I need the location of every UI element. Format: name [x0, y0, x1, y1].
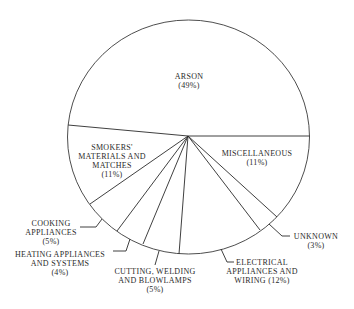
label-cutting-pct: (5%): [146, 285, 163, 294]
leader-cutting: [155, 251, 159, 265]
label-heating: HEATING APPLIANCES AND SYSTEMS (4%): [15, 250, 105, 277]
label-arson: ARSON (49%): [175, 72, 204, 90]
label-arson-pct: (49%): [178, 81, 200, 90]
leader-cooking: [80, 219, 102, 227]
pie-chart-svg: ARSON (49%) MISCELLANEOUS (11%) SMOKERS'…: [0, 0, 354, 309]
label-heating-line2: AND SYSTEMS: [31, 259, 90, 268]
label-electrical-line1: ELECTRICAL: [236, 258, 288, 267]
leader-unknown: [269, 224, 290, 236]
label-cooking-pct: (5%): [42, 237, 59, 246]
label-misc-pct: (11%): [246, 158, 267, 167]
pie-chart: ARSON (49%) MISCELLANEOUS (11%) SMOKERS'…: [0, 0, 354, 309]
leader-electrical: [221, 249, 234, 262]
label-smokers-pct: (11%): [101, 170, 122, 179]
label-cutting-line2: AND BLOWLAMPS: [118, 276, 191, 285]
label-unknown: UNKNOWN (3%): [294, 232, 338, 250]
label-heating-pct: (4%): [51, 268, 68, 277]
label-electrical-line2: APPLIANCES AND: [226, 267, 298, 276]
label-misc-name: MISCELLANEOUS: [222, 149, 293, 158]
label-smokers-line3: MATCHES: [92, 161, 131, 170]
label-cutting: CUTTING, WELDING AND BLOWLAMPS (5%): [114, 267, 195, 294]
label-smokers-line2: MATERIALS AND: [78, 152, 146, 161]
label-heating-line1: HEATING APPLIANCES: [15, 250, 105, 259]
label-unknown-pct: (3%): [307, 241, 324, 250]
label-electrical-line3: WIRING (12%): [234, 276, 289, 285]
label-cooking: COOKING APPLIANCES (5%): [25, 219, 76, 246]
leader-heating: [113, 239, 130, 251]
label-cooking-line1: COOKING: [32, 219, 71, 228]
label-arson-name: ARSON: [175, 72, 204, 81]
label-electrical: ELECTRICAL APPLIANCES AND WIRING (12%): [226, 258, 298, 285]
label-cutting-line1: CUTTING, WELDING: [114, 267, 195, 276]
label-smokers-line1: SMOKERS': [91, 143, 133, 152]
label-cooking-line2: APPLIANCES: [25, 228, 76, 237]
label-unknown-name: UNKNOWN: [294, 232, 338, 241]
